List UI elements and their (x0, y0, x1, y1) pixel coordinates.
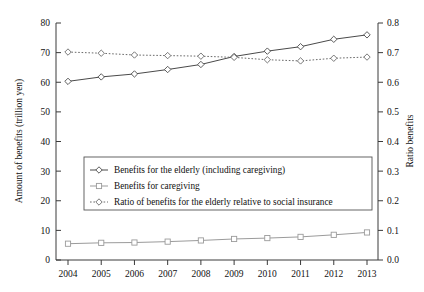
y-axis-title: Amount of benefits (trillion yen) (14, 79, 25, 204)
x-tick-label: 2011 (291, 269, 310, 279)
x-tick-label: 2013 (358, 269, 377, 279)
series-ratio-point (98, 50, 104, 56)
x-tick-label: 2010 (258, 269, 277, 279)
series-caregiving-point (65, 241, 70, 246)
y2-tick-label: 0.5 (387, 107, 399, 117)
series-elderly-point (364, 32, 370, 38)
y-tick-label: 0 (45, 255, 50, 265)
y-tick-label: 50 (41, 107, 51, 117)
left-axis-ticks: 01020304050607080 (41, 18, 62, 265)
series-ratio-point (331, 55, 337, 61)
series-elderly-point (164, 66, 170, 72)
y-tick-label: 70 (41, 48, 51, 58)
y-tick-label: 80 (41, 18, 51, 28)
series-caregiving-point (298, 234, 303, 239)
y2-tick-label: 0.3 (387, 167, 399, 177)
x-tick-label: 2009 (225, 269, 244, 279)
y-tick-label: 40 (41, 137, 51, 147)
y2-tick-label: 0.1 (387, 226, 399, 236)
x-tick-label: 2006 (125, 269, 144, 279)
chart-legend: Benefits for the elderly (including care… (84, 157, 372, 210)
legend-label-2: Benefits for caregiving (114, 181, 200, 191)
x-tick-label: 2008 (191, 269, 210, 279)
series-ratio-point (297, 58, 303, 64)
x-tick-label: 2004 (59, 269, 78, 279)
y-tick-label: 10 (41, 226, 51, 236)
x-tick-label: 2007 (158, 269, 177, 279)
legend-label-3: Ratio of benefits for the elderly relati… (114, 197, 333, 207)
y-tick-label: 20 (41, 196, 51, 206)
legend-marker-2 (96, 183, 101, 188)
series-caregiving-point (364, 230, 369, 235)
series-caregiving-point (165, 239, 170, 244)
series-elderly-point (264, 48, 270, 54)
y-tick-label: 60 (41, 78, 51, 88)
series-caregiving-point (198, 238, 203, 243)
series-ratio-point (264, 57, 270, 63)
series-ratio-point (164, 52, 170, 58)
series-caregiving-point (331, 232, 336, 237)
y2-tick-label: 0.6 (387, 78, 399, 88)
right-axis-ticks: 0.00.10.20.30.40.50.60.70.8 (378, 18, 399, 265)
y-tick-label: 30 (41, 167, 51, 177)
series-caregiving-point (132, 240, 137, 245)
series-caregiving-point (265, 235, 270, 240)
series-elderly-line (68, 35, 367, 82)
y2-tick-label: 0.0 (387, 255, 399, 265)
series-ratio-line (68, 52, 367, 61)
y2-tick-label: 0.2 (387, 196, 399, 206)
chart-container: 01020304050607080 0.00.10.20.30.40.50.60… (0, 0, 424, 292)
series-caregiving-line (68, 232, 367, 243)
series-elderly-point (297, 44, 303, 50)
series-elderly-point (98, 74, 104, 80)
series-caregiving-point (99, 240, 104, 245)
y2-tick-label: 0.7 (387, 48, 399, 58)
line-chart: 01020304050607080 0.00.10.20.30.40.50.60… (0, 0, 424, 292)
series-ratio-point (65, 49, 71, 55)
legend-label-1: Benefits for the elderly (including care… (114, 165, 285, 176)
series-elderly-point (131, 71, 137, 77)
x-tick-label: 2005 (92, 269, 111, 279)
series-elderly-point (65, 78, 71, 84)
series-group (65, 32, 370, 247)
x-axis-ticks: 2004200520062007200820092010201120122013 (59, 260, 377, 279)
y2-axis-title: Ratio benefits (405, 114, 415, 167)
series-elderly-point (198, 61, 204, 67)
series-elderly-point (331, 36, 337, 42)
series-ratio-point (131, 52, 137, 58)
series-ratio-point (364, 54, 370, 60)
x-tick-label: 2012 (324, 269, 343, 279)
y2-tick-label: 0.8 (387, 18, 399, 28)
y2-tick-label: 0.4 (387, 137, 399, 147)
series-ratio-point (198, 53, 204, 59)
series-caregiving-point (232, 236, 237, 241)
